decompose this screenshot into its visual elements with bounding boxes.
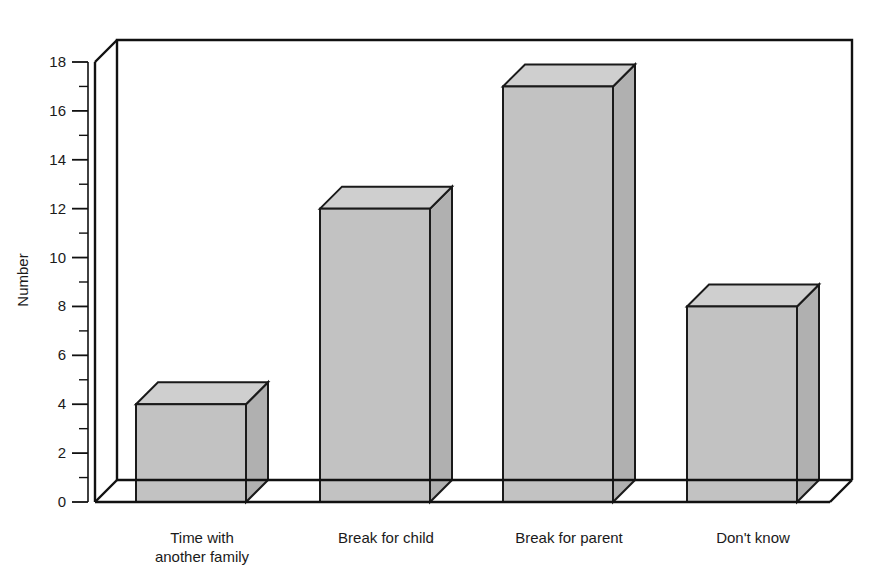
y-tick-label: 16	[49, 102, 66, 119]
y-tick-label: 10	[49, 249, 66, 266]
x-axis-category-labels: Time withanother familyBreak for childBr…	[155, 529, 790, 565]
y-axis-ticks	[72, 62, 88, 502]
bar	[687, 284, 819, 502]
y-axis-title: Number	[14, 253, 31, 306]
chart-container: 024681012141618 Time withanother familyB…	[0, 0, 882, 583]
y-tick-label: 6	[58, 346, 66, 363]
y-axis-tick-labels: 024681012141618	[49, 53, 66, 510]
x-category-label: Break for parent	[515, 529, 623, 546]
y-tick-label: 4	[58, 395, 66, 412]
x-category-label: Break for child	[338, 529, 434, 546]
y-tick-label: 0	[58, 493, 66, 510]
y-tick-label: 2	[58, 444, 66, 461]
y-tick-label: 14	[49, 151, 66, 168]
x-category-label: Time withanother family	[155, 529, 250, 565]
bar	[320, 187, 452, 502]
bar-chart-3d: 024681012141618 Time withanother familyB…	[0, 0, 882, 583]
y-tick-label: 8	[58, 297, 66, 314]
bar	[503, 64, 635, 502]
y-tick-label: 12	[49, 200, 66, 217]
x-category-label: Don't know	[716, 529, 790, 546]
y-tick-label: 18	[49, 53, 66, 70]
bar	[136, 382, 268, 502]
